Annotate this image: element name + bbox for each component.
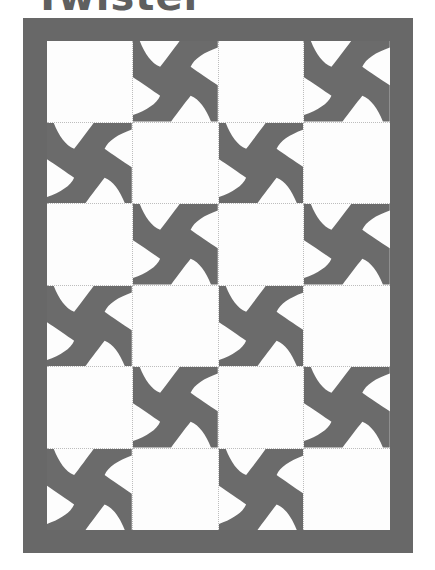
quilt-block-pinwheel xyxy=(47,123,133,205)
pinwheel-icon xyxy=(304,204,390,285)
pinwheel-icon xyxy=(47,286,132,367)
quilt-block-pinwheel xyxy=(133,204,219,286)
quilt-block-pinwheel xyxy=(133,367,219,449)
quilt-block-plain xyxy=(47,204,133,286)
quilt-block-pinwheel xyxy=(47,286,133,368)
quilt-block-pinwheel xyxy=(304,41,390,123)
pinwheel-icon xyxy=(304,41,390,122)
quilt-block-pinwheel xyxy=(304,367,390,449)
quilt-block-plain xyxy=(219,367,305,449)
pinwheel-icon xyxy=(219,449,304,531)
quilt-block-pinwheel xyxy=(304,204,390,286)
quilt-block-pinwheel xyxy=(219,123,305,205)
pinwheel-icon xyxy=(304,367,390,448)
quilt-block-pinwheel xyxy=(219,286,305,368)
quilt-block-plain xyxy=(133,449,219,531)
quilt-block-plain xyxy=(304,123,390,205)
pinwheel-icon xyxy=(133,367,218,448)
quilt-block-pinwheel xyxy=(47,449,133,531)
pinwheel-icon xyxy=(133,204,218,285)
page-title: Twister xyxy=(34,0,204,16)
quilt-block-pinwheel xyxy=(133,41,219,123)
quilt-border xyxy=(23,18,413,553)
quilt-block-plain xyxy=(47,41,133,123)
quilt-block-plain xyxy=(133,123,219,205)
pinwheel-icon xyxy=(47,123,132,204)
quilt-block-plain xyxy=(133,286,219,368)
quilt-block-plain xyxy=(219,204,305,286)
quilt-block-plain xyxy=(47,367,133,449)
pinwheel-icon xyxy=(219,123,304,204)
quilt-block-plain xyxy=(304,449,390,531)
quilt-block-plain xyxy=(304,286,390,368)
pinwheel-icon xyxy=(219,286,304,367)
quilt-block-plain xyxy=(219,41,305,123)
quilt-block-pinwheel xyxy=(219,449,305,531)
quilt-grid xyxy=(47,41,390,530)
pinwheel-icon xyxy=(133,41,218,122)
pinwheel-icon xyxy=(47,449,132,531)
